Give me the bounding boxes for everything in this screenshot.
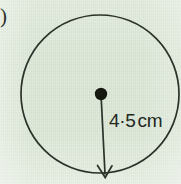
circle-centre-group bbox=[95, 88, 107, 100]
radius-unit-text: cm bbox=[138, 110, 163, 131]
centre-point-dot bbox=[95, 88, 107, 100]
radius-value-text: 4·5 bbox=[109, 110, 136, 131]
figure-canvas: ) 4·5cm bbox=[0, 0, 181, 184]
radius-measurement-label: 4·5cm bbox=[109, 109, 162, 133]
radius-line bbox=[101, 94, 105, 174]
radius-arrow-group bbox=[98, 94, 113, 178]
circle-diagram bbox=[0, 0, 181, 184]
